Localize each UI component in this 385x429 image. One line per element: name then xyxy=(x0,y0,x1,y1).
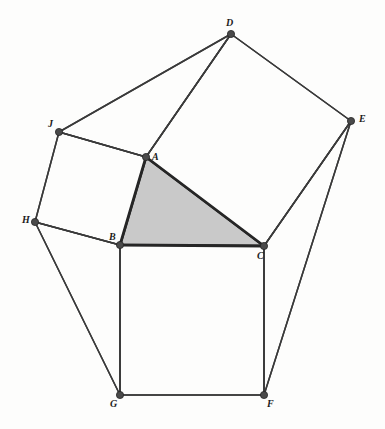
vertex-label-h: H xyxy=(22,215,30,225)
vertex-label-f: F xyxy=(267,399,274,409)
vertex-label-d: D xyxy=(226,18,233,28)
square-on-bc-bcfg xyxy=(120,245,264,395)
vertex-point-h[interactable] xyxy=(31,218,38,225)
vertex-label-j: J xyxy=(48,119,53,129)
vertex-point-e[interactable] xyxy=(347,117,354,124)
vertex-point-d[interactable] xyxy=(227,30,234,37)
geometry-figure: ABCDEFGHJ xyxy=(0,0,385,429)
vertex-point-c[interactable] xyxy=(260,242,267,249)
vertex-point-g[interactable] xyxy=(116,391,123,398)
edge-bc xyxy=(120,245,264,246)
edge-hg xyxy=(35,222,120,395)
vertex-label-g: G xyxy=(110,399,117,409)
vertex-label-e: E xyxy=(359,114,366,124)
vertex-point-a[interactable] xyxy=(142,153,149,160)
vertex-point-j[interactable] xyxy=(55,128,62,135)
vertex-point-b[interactable] xyxy=(116,241,123,248)
vertex-label-c: C xyxy=(257,251,264,261)
figure-canvas xyxy=(0,0,385,429)
vertex-label-b: B xyxy=(109,232,116,242)
vertex-label-a: A xyxy=(152,152,159,162)
